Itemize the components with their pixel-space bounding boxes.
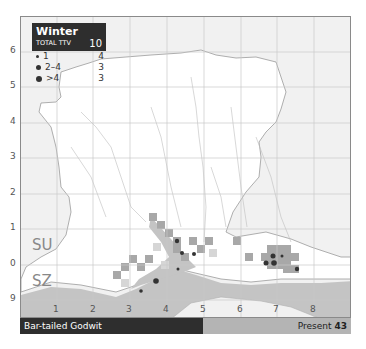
legend-count: 3 bbox=[98, 73, 104, 84]
legend-label: 2–4 bbox=[45, 62, 61, 73]
x-tick-7: 7 bbox=[273, 304, 279, 314]
y-tick-6: 6 bbox=[10, 45, 16, 55]
present-value: 43 bbox=[334, 321, 347, 331]
species-map-panel: 6 5 4 3 2 1 0 9 1 2 3 4 5 6 7 8 SU SZ Wi… bbox=[0, 0, 366, 349]
grid-ref-su: SU bbox=[32, 236, 53, 254]
y-tick-4: 4 bbox=[10, 116, 16, 126]
legend-label: >4 bbox=[46, 73, 59, 84]
y-tick-5: 5 bbox=[10, 80, 16, 90]
x-tick-1: 1 bbox=[53, 304, 59, 314]
species-name: Bar-tailed Godwit bbox=[20, 318, 203, 334]
small-dot-icon bbox=[36, 55, 39, 58]
x-tick-5: 5 bbox=[200, 304, 206, 314]
legend-row-2-4: 2–4 3 bbox=[32, 62, 106, 73]
x-tick-4: 4 bbox=[163, 304, 169, 314]
present-label: Present bbox=[298, 321, 332, 331]
legend-row-gt4: >4 3 bbox=[32, 73, 106, 84]
legend-count: 4 bbox=[98, 51, 104, 62]
total-ttv: TOTAL TTV 10 bbox=[36, 38, 102, 49]
legend-header: Winter TOTAL TTV 10 bbox=[32, 23, 106, 51]
y-tick-1: 1 bbox=[10, 222, 16, 232]
legend-row-1: 1 4 bbox=[32, 51, 106, 62]
x-tick-8: 8 bbox=[310, 304, 316, 314]
large-dot-icon bbox=[36, 76, 42, 82]
x-tick-6: 6 bbox=[237, 304, 243, 314]
present-count: Present 43 bbox=[203, 318, 351, 334]
total-value: 10 bbox=[89, 38, 102, 49]
y-tick-3: 3 bbox=[10, 151, 16, 161]
y-tick-0: 0 bbox=[10, 258, 16, 268]
y-tick-9: 9 bbox=[10, 293, 16, 303]
grid-ref-sz: SZ bbox=[32, 272, 52, 290]
legend-count: 3 bbox=[98, 62, 104, 73]
x-tick-2: 2 bbox=[90, 304, 96, 314]
total-label: TOTAL TTV bbox=[36, 38, 71, 49]
map-footer: Bar-tailed Godwit Present 43 bbox=[20, 318, 351, 334]
y-tick-2: 2 bbox=[10, 187, 16, 197]
map-legend: Winter TOTAL TTV 10 1 4 2–4 3 >4 3 bbox=[32, 23, 106, 84]
legend-label: 1 bbox=[43, 51, 49, 62]
medium-dot-icon bbox=[36, 65, 41, 70]
season-title: Winter bbox=[36, 25, 102, 38]
x-tick-3: 3 bbox=[126, 304, 132, 314]
